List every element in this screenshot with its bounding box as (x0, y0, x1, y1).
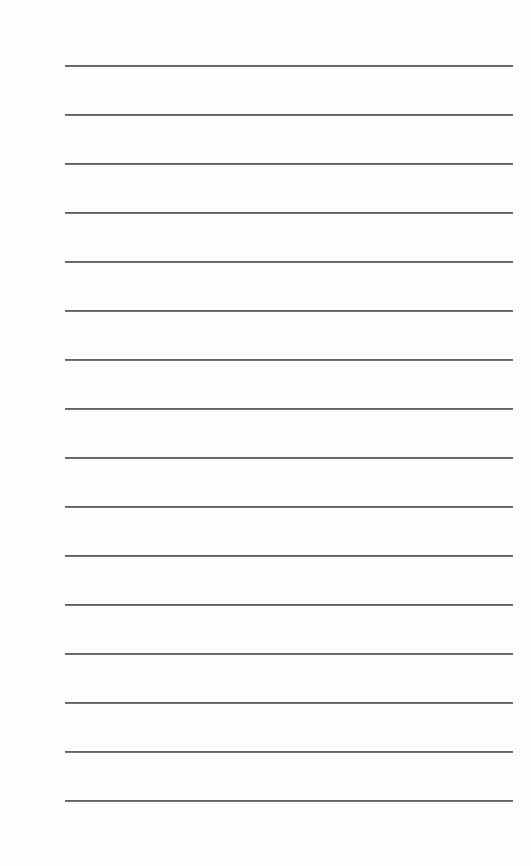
ruled-line (65, 702, 513, 704)
ruled-line (65, 310, 513, 312)
ruled-line (65, 114, 513, 116)
ruled-line (65, 457, 513, 459)
ruled-line (65, 604, 513, 606)
ruled-line (65, 261, 513, 263)
ruled-line (65, 408, 513, 410)
ruled-line (65, 555, 513, 557)
ruled-line (65, 359, 513, 361)
ruled-line (65, 800, 513, 802)
ruled-line (65, 212, 513, 214)
ruled-line (65, 653, 513, 655)
lined-page (0, 0, 531, 866)
ruled-line (65, 65, 513, 67)
ruled-line (65, 506, 513, 508)
ruled-line (65, 751, 513, 753)
ruled-line (65, 163, 513, 165)
